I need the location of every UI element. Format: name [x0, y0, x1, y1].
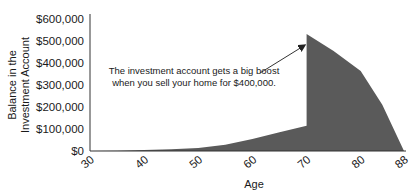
chart: $0$100,000$200,000$300,000$400,000$500,0…: [0, 0, 420, 196]
x-tick-label: 50: [187, 153, 205, 170]
y-tick-labels: $0$100,000$200,000$300,000$400,000$500,0…: [36, 13, 84, 157]
x-tick-labels: 30405060708088: [79, 153, 411, 170]
y-axis-title-line-2: Investment Account: [19, 37, 31, 133]
y-tick-label: $600,000: [36, 13, 84, 25]
y-tick-label: $500,000: [36, 35, 84, 47]
area-layer: [90, 34, 404, 151]
y-tick-label: $200,000: [36, 101, 84, 113]
annotation-arrow: [260, 45, 305, 73]
annotation-line-1: The investment account gets a big boost: [109, 65, 280, 76]
x-axis-title: Age: [244, 178, 264, 190]
x-tick-label: 80: [349, 153, 367, 170]
y-tick-label: $300,000: [36, 79, 84, 91]
annotation-line-2: when you sell your home for $400,000.: [111, 77, 276, 88]
y-axis-title-line-1: Balance in the: [6, 50, 18, 120]
y-tick-label: $0: [71, 145, 84, 157]
balance-area: [90, 34, 404, 151]
y-tick-label: $100,000: [36, 123, 84, 135]
x-tick-label: 60: [241, 153, 259, 170]
y-tick-label: $400,000: [36, 57, 84, 69]
x-tick-label: 88: [393, 153, 411, 170]
x-tick-label: 40: [133, 153, 151, 170]
x-tick-label: 70: [295, 153, 313, 170]
